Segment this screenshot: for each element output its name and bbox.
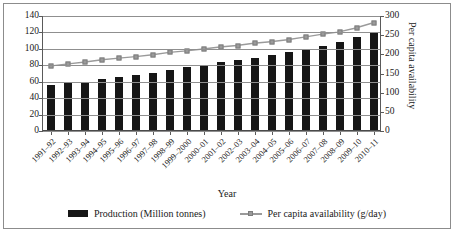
y-axis-tick [39,65,43,66]
y-axis-tick-label: 40 [9,93,39,103]
line-marker [354,26,359,31]
grid-line [43,65,380,66]
line-marker [252,41,257,46]
grid-line [43,16,380,17]
y-axis-tick-label: 0 [9,126,39,136]
grid-line [43,115,380,116]
y-axis-tick [39,49,43,50]
legend-label-production: Production (Million tonnes) [94,208,206,219]
legend-item-production: Production (Million tonnes) [68,208,206,219]
plot-area: 1991–921992–931993–941994–951995–961996–… [42,16,381,131]
grid-line [43,131,380,132]
legend-item-per-capita: Per capita availability (g/day) [240,208,387,219]
y-axis-tick-label: 60 [9,77,39,87]
y-axis-tick-label: 140 [9,11,39,21]
line-marker [168,50,173,55]
line-marker [235,43,240,48]
chart-figure: 1991–921992–931993–941994–951995–961996–… [0,0,454,241]
line-marker [134,54,139,59]
y-axis-tick [39,131,43,132]
legend-label-per-capita: Per capita availability (g/day) [268,208,387,219]
line-marker [151,52,156,57]
y2-axis-title: Per capita availability [407,22,418,132]
y-axis-tick-label: 20 [9,110,39,120]
y2-axis-tick [380,93,384,94]
bar-swatch-icon [68,210,88,217]
y-axis-tick-label: 80 [9,61,39,71]
y2-axis-tick [380,54,384,55]
line-marker [117,56,122,61]
y2-axis-tick [380,74,384,75]
y-axis-tick-label: 120 [9,28,39,38]
chart-legend: Production (Million tonnes) Per capita a… [0,208,454,219]
y2-axis-tick [380,16,384,17]
line-marker [100,57,105,62]
y-axis-tick [39,32,43,33]
line-marker [303,35,308,40]
grid-line [43,98,380,99]
line-marker [286,37,291,42]
line-marker [269,39,274,44]
y-axis-tick [39,82,43,83]
grid-line [43,82,380,83]
y-axis-tick [39,98,43,99]
y2-axis-tick [380,35,384,36]
x-axis-title: Year [0,188,454,199]
grid-line [43,49,380,50]
line-marker-swatch-icon [240,210,262,217]
y2-axis-tick-label: 300 [385,11,415,21]
y2-axis-tick [380,112,384,113]
grid-line [43,32,380,33]
line-marker [83,60,88,65]
y-axis-tick-label: 100 [9,44,39,54]
y-axis-tick [39,16,43,17]
y2-axis-tick [380,131,384,132]
y-axis-tick [39,115,43,116]
line-marker [371,21,376,26]
